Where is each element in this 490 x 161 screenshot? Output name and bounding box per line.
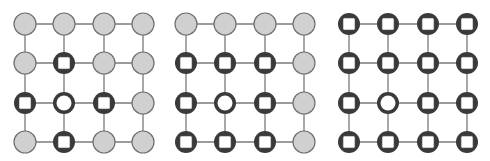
diagram-canvas — [0, 0, 490, 161]
grid-diagram — [0, 0, 490, 161]
node-idle — [14, 131, 36, 153]
node-square — [338, 131, 360, 153]
node-square — [93, 92, 115, 114]
node-idle — [132, 52, 154, 74]
node-square — [417, 13, 439, 35]
node-square — [456, 13, 478, 35]
node-square — [175, 52, 197, 74]
node-square — [214, 131, 236, 153]
node-square — [53, 131, 75, 153]
node-idle — [53, 13, 75, 35]
node-ring — [214, 92, 236, 114]
node-square — [456, 92, 478, 114]
node-square — [254, 52, 276, 74]
node-idle — [254, 13, 276, 35]
node-idle — [93, 13, 115, 35]
grid-edges — [349, 24, 467, 142]
node-square — [377, 52, 399, 74]
node-idle — [14, 13, 36, 35]
node-ring — [377, 92, 399, 114]
node-square — [338, 52, 360, 74]
node-idle — [93, 131, 115, 153]
node-square — [338, 13, 360, 35]
node-square — [14, 92, 36, 114]
grid-edges — [186, 24, 304, 142]
grid-1 — [14, 13, 154, 153]
node-square — [377, 13, 399, 35]
node-square — [254, 92, 276, 114]
node-idle — [293, 13, 315, 35]
node-idle — [132, 13, 154, 35]
grid-2 — [175, 13, 315, 153]
node-square — [456, 131, 478, 153]
node-square — [417, 131, 439, 153]
node-idle — [293, 92, 315, 114]
node-square — [175, 131, 197, 153]
grid-3 — [338, 13, 478, 153]
node-idle — [214, 13, 236, 35]
node-idle — [175, 13, 197, 35]
node-ring — [53, 92, 75, 114]
node-square — [377, 131, 399, 153]
node-idle — [93, 52, 115, 74]
node-square — [254, 131, 276, 153]
node-idle — [14, 52, 36, 74]
node-square — [53, 52, 75, 74]
node-square — [417, 52, 439, 74]
node-square — [175, 92, 197, 114]
node-idle — [132, 131, 154, 153]
grid-edges — [25, 24, 143, 142]
node-square — [338, 92, 360, 114]
node-idle — [132, 92, 154, 114]
node-square — [456, 52, 478, 74]
node-idle — [293, 52, 315, 74]
node-square — [417, 92, 439, 114]
node-square — [214, 52, 236, 74]
node-idle — [293, 131, 315, 153]
